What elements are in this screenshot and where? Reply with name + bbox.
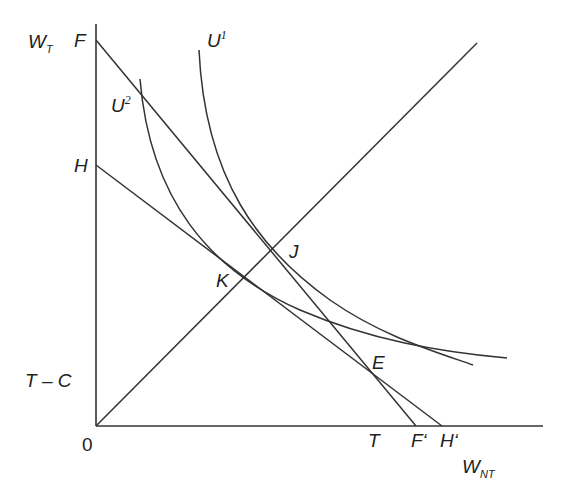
origin-label: 0 — [82, 434, 93, 455]
label-h-prime: H‘ — [440, 430, 459, 451]
trade-diagram: WT F H T – C 0 T F‘ H‘ WNT U1 U2 J K E — [0, 0, 568, 503]
point-label-e: E — [372, 352, 385, 373]
label-h: H — [74, 155, 88, 176]
indifference-curve-u2 — [140, 79, 507, 358]
point-label-k: K — [216, 270, 230, 291]
indifference-curve-u1 — [199, 50, 473, 365]
budget-line-ff — [96, 40, 416, 426]
label-t: T — [368, 430, 381, 451]
point-label-j: J — [288, 241, 299, 262]
label-f: F — [74, 30, 87, 51]
budget-line-hh — [96, 165, 442, 426]
y-axis-label: WT — [28, 31, 54, 55]
x-axis-label: WNT — [462, 456, 496, 480]
curve-label-u1: U1 — [207, 28, 227, 51]
label-f-prime: F‘ — [411, 430, 428, 451]
diagonal-line — [96, 43, 477, 426]
label-t-minus-c: T – C — [25, 370, 72, 391]
curve-label-u2: U2 — [111, 93, 131, 116]
